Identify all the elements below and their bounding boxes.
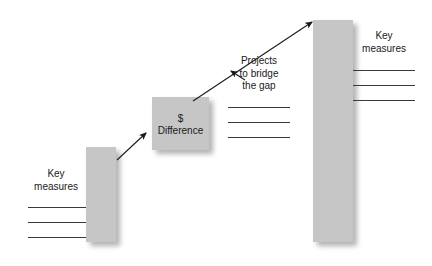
- left-bar-current-state: [86, 147, 116, 242]
- right-key-measures-label: Key measures: [353, 30, 415, 55]
- middle-rules-3: [228, 137, 290, 138]
- right-bar-target-state: [313, 20, 353, 242]
- bridge-gap-diagram: Key measures $ Difference Projects to br…: [0, 0, 432, 266]
- projects-to-bridge-the-gap-label: Projects to bridge the gap: [228, 55, 290, 93]
- left-rules-2: [28, 222, 86, 223]
- left-rules-3: [28, 237, 86, 238]
- middle-rules-2: [228, 122, 290, 123]
- difference-box-symbol: $: [152, 113, 209, 126]
- left-key-measures-label: Key measures: [20, 168, 92, 193]
- middle-rules-1: [228, 107, 290, 108]
- difference-box-label: Difference: [149, 125, 212, 138]
- right-rules-1: [353, 70, 415, 71]
- left-rules-1: [28, 207, 86, 208]
- right-rules-3: [353, 100, 415, 101]
- right-rules-2: [353, 85, 415, 86]
- left-bar-to-difference-arrow: [117, 133, 146, 160]
